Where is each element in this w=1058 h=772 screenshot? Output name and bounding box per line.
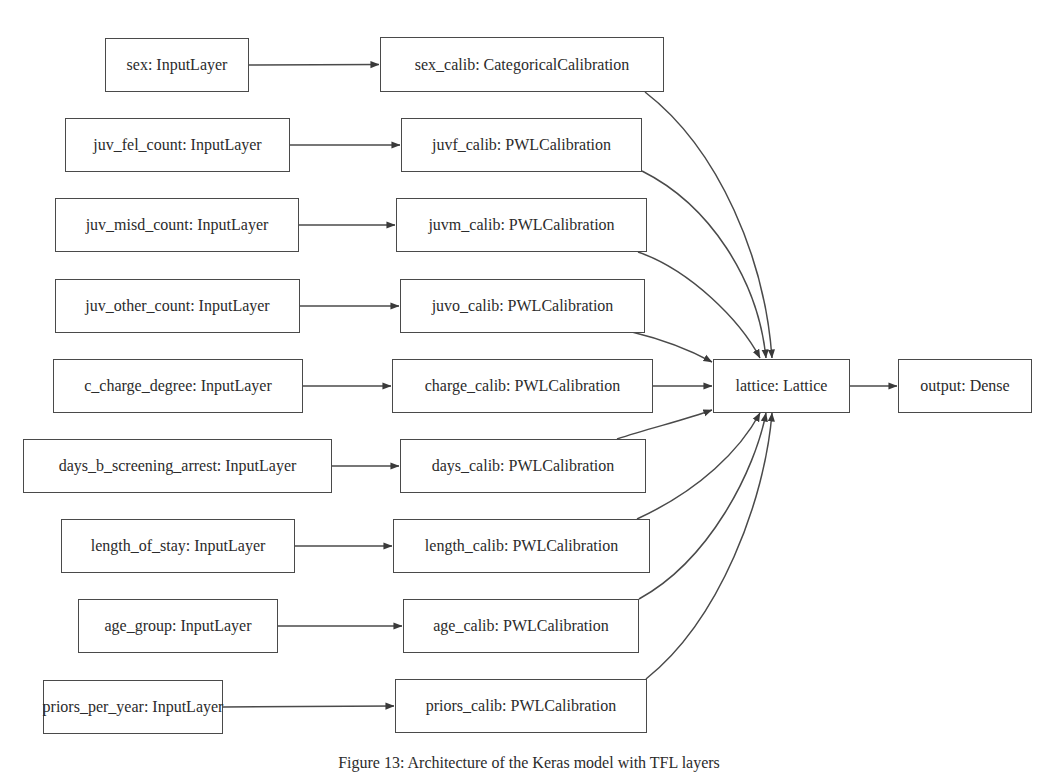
node-days-calib: days_calib: PWLCalibration bbox=[400, 439, 646, 493]
node-sex-calib: sex_calib: CategoricalCalibration bbox=[380, 37, 664, 92]
node-label: days_b_screening_arrest: InputLayer bbox=[59, 457, 297, 475]
node-label: juv_other_count: InputLayer bbox=[85, 297, 269, 315]
node-label: output: Dense bbox=[920, 377, 1009, 395]
node-juv-fel-input: juv_fel_count: InputLayer bbox=[65, 118, 290, 172]
node-label: lattice: Lattice bbox=[736, 377, 828, 395]
node-label: length_calib: PWLCalibration bbox=[425, 537, 618, 555]
node-label: juvm_calib: PWLCalibration bbox=[428, 216, 614, 234]
edge-arrow-age-calib-to-lattice bbox=[639, 413, 766, 599]
node-label: juvo_calib: PWLCalibration bbox=[432, 297, 614, 315]
node-days-input: days_b_screening_arrest: InputLayer bbox=[23, 439, 332, 493]
edge-arrow-juvo-calib-to-lattice bbox=[632, 332, 712, 362]
edge-arrow-juvf-calib-to-lattice bbox=[642, 171, 766, 358]
node-label: length_of_stay: InputLayer bbox=[91, 537, 266, 555]
node-label: charge_calib: PWLCalibration bbox=[425, 377, 621, 395]
node-age-input: age_group: InputLayer bbox=[78, 599, 278, 653]
edge-arrow-days-calib-to-lattice bbox=[617, 410, 712, 439]
edge-arrow-length-calib-to-lattice bbox=[637, 413, 760, 519]
node-juv-other-input: juv_other_count: InputLayer bbox=[55, 279, 300, 333]
node-juv-misd-input: juv_misd_count: InputLayer bbox=[55, 198, 299, 252]
edge-arrow-juvm-calib-to-lattice bbox=[638, 252, 760, 358]
node-lattice: lattice: Lattice bbox=[713, 359, 850, 413]
node-label: days_calib: PWLCalibration bbox=[432, 457, 615, 475]
node-length-input: length_of_stay: InputLayer bbox=[61, 519, 295, 573]
edge-arrow-sex-input-to-sex-calib bbox=[249, 65, 379, 66]
node-sex-input: sex: InputLayer bbox=[105, 38, 249, 92]
edge-arrow-sex-calib-to-lattice bbox=[645, 92, 772, 358]
node-label: priors_calib: PWLCalibration bbox=[426, 697, 617, 715]
node-label: juvf_calib: PWLCalibration bbox=[432, 136, 611, 154]
node-label: sex_calib: CategoricalCalibration bbox=[415, 56, 630, 74]
node-juvm-calib: juvm_calib: PWLCalibration bbox=[396, 198, 647, 252]
node-label: sex: InputLayer bbox=[127, 56, 228, 74]
edge-arrow-priors-input-to-priors-calib bbox=[223, 706, 394, 707]
node-label: c_charge_degree: InputLayer bbox=[84, 377, 272, 395]
node-label: age_group: InputLayer bbox=[104, 617, 251, 635]
node-priors-calib: priors_calib: PWLCalibration bbox=[395, 679, 647, 733]
node-length-calib: length_calib: PWLCalibration bbox=[393, 519, 650, 573]
node-label: juv_misd_count: InputLayer bbox=[86, 216, 269, 234]
node-label: juv_fel_count: InputLayer bbox=[93, 136, 261, 154]
node-output: output: Dense bbox=[898, 359, 1032, 413]
node-label: age_calib: PWLCalibration bbox=[433, 617, 609, 635]
node-juvo-calib: juvo_calib: PWLCalibration bbox=[400, 279, 645, 333]
edge-arrow-priors-calib-to-lattice bbox=[646, 413, 772, 679]
figure-caption: Figure 13: Architecture of the Keras mod… bbox=[0, 754, 1058, 772]
node-age-calib: age_calib: PWLCalibration bbox=[403, 599, 639, 653]
node-priors-input: priors_per_year: InputLayer bbox=[43, 680, 223, 734]
node-juvf-calib: juvf_calib: PWLCalibration bbox=[401, 118, 642, 172]
node-c-charge-input: c_charge_degree: InputLayer bbox=[53, 359, 303, 413]
node-label: priors_per_year: InputLayer bbox=[43, 698, 224, 716]
node-charge-calib: charge_calib: PWLCalibration bbox=[392, 359, 653, 413]
